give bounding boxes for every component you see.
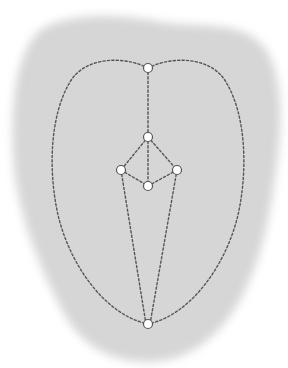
node-bottom[interactable] bbox=[144, 320, 153, 329]
diagram-canvas bbox=[0, 0, 288, 368]
node-center[interactable] bbox=[144, 182, 153, 191]
node-top[interactable] bbox=[144, 64, 153, 73]
node-right[interactable] bbox=[173, 166, 182, 175]
node-upper-mid[interactable] bbox=[144, 133, 153, 142]
diagram-svg bbox=[0, 0, 288, 368]
node-left[interactable] bbox=[117, 166, 126, 175]
